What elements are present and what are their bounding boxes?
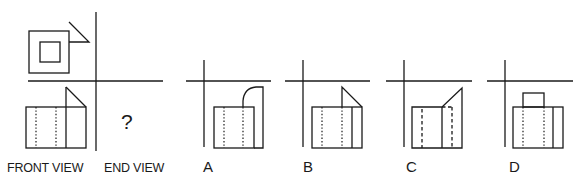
option-d-figure[interactable] [487,60,573,148]
top-view-figure [29,22,89,73]
option-a-label[interactable]: A [203,158,213,175]
option-c-label[interactable]: C [406,158,417,175]
orthographic-projection-puzzle [0,0,582,188]
front-view-label: FRONT VIEW [7,161,83,175]
option-b-label[interactable]: B [303,158,313,175]
unknown-end-view-question-mark: ? [121,110,133,134]
main-quadrant-axes [28,12,163,151]
option-d-label[interactable]: D [509,158,520,175]
end-view-label: END VIEW [104,161,164,175]
option-a-figure[interactable] [186,60,271,148]
option-c-figure[interactable] [386,60,472,148]
front-view-figure [26,87,86,148]
option-b-figure[interactable] [285,60,370,148]
